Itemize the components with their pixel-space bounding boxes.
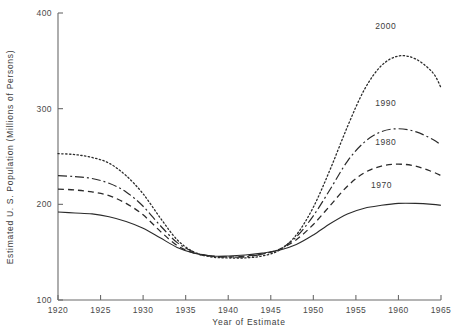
curve-2000 [58,56,441,258]
x-tick-label-1940: 1940 [218,305,239,315]
series-label-1990: 1990 [375,98,396,108]
x-axis-ticks: 1920192519301935194019451950195519601965 [48,295,452,315]
axes-group [58,13,441,300]
x-tick-label-1925: 1925 [90,305,111,315]
x-tick-label-1955: 1955 [346,305,367,315]
population-projection-chart: 100200300400 192019251930193519401945195… [0,0,455,330]
y-tick-label-400: 400 [37,8,52,18]
y-axis-ticks: 100200300400 [37,8,63,305]
x-tick-label-1960: 1960 [388,305,409,315]
x-tick-label-1945: 1945 [261,305,282,315]
y-tick-label-300: 300 [37,104,52,114]
curve-1970 [58,203,441,256]
data-curves [58,56,441,258]
x-tick-label-1920: 1920 [48,305,69,315]
series-label-1980: 1980 [375,137,396,147]
y-axis-title: Estimated U. S. Population (Millions of … [5,50,15,265]
x-tick-label-1935: 1935 [175,305,196,315]
curve-1980 [58,164,441,257]
chart-canvas: 100200300400 192019251930193519401945195… [0,0,455,330]
series-label-2000: 2000 [375,21,396,31]
y-tick-label-100: 100 [37,295,52,305]
series-labels: 2000199019801970 [371,21,396,190]
y-tick-label-200: 200 [37,199,52,209]
series-label-1970: 1970 [371,180,392,190]
x-tick-label-1950: 1950 [303,305,324,315]
x-axis-title: Year of Estimate [212,317,285,327]
x-tick-label-1930: 1930 [133,305,154,315]
x-tick-label-1965: 1965 [431,305,452,315]
curve-1990 [58,129,441,257]
